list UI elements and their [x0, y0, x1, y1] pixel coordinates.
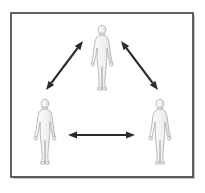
diagram-container: Three human figures connected by double-…: [0, 0, 205, 193]
diagram-canvas: [0, 0, 205, 193]
